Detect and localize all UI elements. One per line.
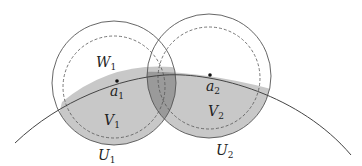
label-u1: U1 (98, 147, 116, 165)
label-u2: U2 (216, 142, 234, 160)
point-a2 (208, 73, 212, 77)
label-w1: W1 (96, 54, 116, 72)
neighborhood-diagram: W1 a1 V1 U1 a2 V2 U2 (0, 0, 362, 166)
